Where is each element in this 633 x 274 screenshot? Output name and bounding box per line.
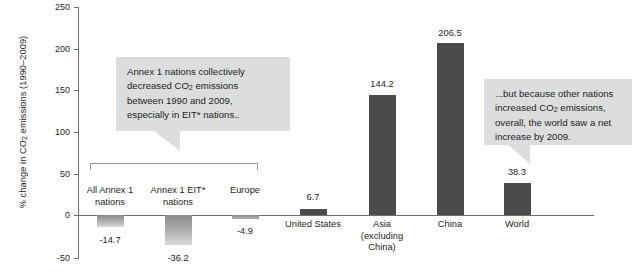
- y-ticklabel-neg50: -50: [30, 253, 70, 263]
- bar-all-annex1-nations: [97, 215, 124, 227]
- value-label-united-states: 6.7: [278, 192, 348, 202]
- callout-right-line-3: overall, the world saw a net: [495, 116, 622, 130]
- annex1-group-bracket: [90, 163, 258, 170]
- y-ticklabel-150: 150: [30, 85, 70, 95]
- y-tick-150: [74, 90, 79, 91]
- x-axis-zero-line: [78, 215, 594, 216]
- value-label-annex1-eit-nations: -36.2: [143, 253, 213, 263]
- y-ticklabel-250: 250: [30, 2, 70, 12]
- callout-annex1-decrease: Annex 1 nations collectively decreased C…: [116, 57, 290, 131]
- bar-world: [504, 183, 531, 215]
- y-tick-neg50: [74, 258, 79, 259]
- callout-left-line-3: between 1990 and 2009,: [127, 94, 280, 108]
- y-tick-100: [74, 132, 79, 133]
- y-tick-0: [74, 215, 79, 216]
- y-ticklabel-0: 0: [30, 210, 70, 220]
- value-label-world: 38.3: [482, 167, 552, 177]
- bar-annex1-eit-nations: [165, 215, 192, 245]
- bar-asia-excluding-china: [369, 95, 396, 215]
- callout-left-line-2: decreased CO2 emissions: [127, 79, 280, 95]
- callout-right-line-2-post: emissions,: [558, 102, 606, 113]
- value-label-china: 206.5: [415, 28, 485, 38]
- callout-left-line-1: Annex 1 nations collectively: [127, 65, 280, 79]
- value-label-all-annex1-nations: -14.7: [75, 235, 145, 245]
- callout-right-line-4: increase by 2009.: [495, 130, 622, 144]
- callout-left-pointer: [154, 131, 180, 151]
- category-label-world: World: [474, 219, 560, 231]
- callout-left-line-4: especially in EIT* nations..: [127, 108, 280, 122]
- callout-world-net-increase: ...but because other nations increased C…: [484, 79, 632, 145]
- value-label-asia-excluding-china: 144.2: [347, 79, 417, 89]
- bar-united-states: [300, 209, 327, 215]
- callout-right-line-1: ...but because other nations: [495, 87, 622, 101]
- y-tick-250: [74, 7, 79, 8]
- y-ticklabel-200: 200: [30, 44, 70, 54]
- y-tick-50: [74, 174, 79, 175]
- callout-left-line-2-pre: decreased CO: [127, 80, 189, 91]
- callout-right-line-2-pre: increased CO: [495, 102, 554, 113]
- y-ticklabel-50: 50: [30, 169, 70, 179]
- y-tick-200: [74, 49, 79, 50]
- callout-right-pointer: [508, 145, 530, 164]
- y-axis-label-subscript: 2: [21, 136, 28, 140]
- y-axis-label-post: emissions (1990–2009): [18, 36, 28, 136]
- bar-china: [437, 43, 464, 215]
- y-axis-label: % change in CO2 emissions (1990–2009): [18, 7, 28, 237]
- y-ticklabel-100: 100: [30, 127, 70, 137]
- co2-change-bar-chart: % change in CO2 emissions (1990–2009) 25…: [0, 0, 633, 274]
- callout-right-line-2: increased CO2 emissions,: [495, 101, 622, 117]
- bar-europe: [232, 215, 259, 219]
- y-axis-label-pre: % change in CO: [18, 140, 28, 208]
- category-label-europe: Europe: [202, 185, 288, 197]
- callout-left-line-2-post: emissions: [193, 80, 238, 91]
